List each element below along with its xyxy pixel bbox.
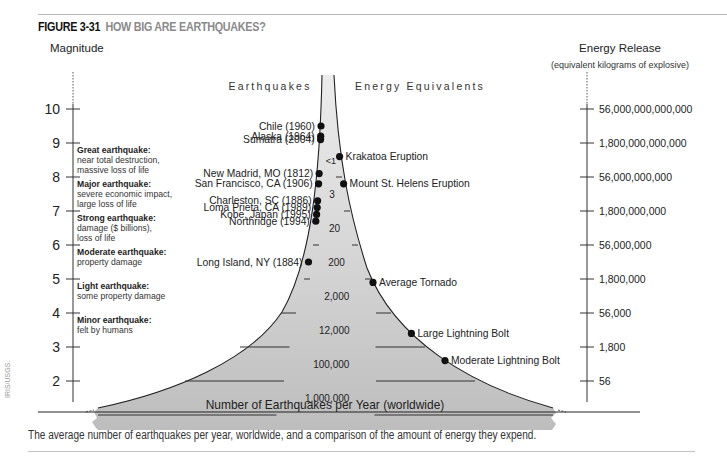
magnitude-tick-label: 10 — [44, 101, 60, 117]
category-description: property damage — [77, 257, 142, 267]
frequency-band-label: 100,000 — [313, 359, 350, 370]
frequency-band-label: <1 — [326, 156, 336, 166]
earthquake-label: Sumatra (2004) — [243, 134, 315, 145]
energy-equivalent-point: Large Lightning Bolt — [408, 328, 509, 339]
energy-equivalent-label: Mount St. Helens Eruption — [350, 178, 470, 189]
energy-tick-label: 1,800,000,000 — [599, 205, 666, 217]
energy-equivalent-label: Moderate Lightning Bolt — [451, 355, 560, 366]
earthquake-point: Sumatra (2004) — [243, 134, 324, 145]
image-credit: IRIS/USGS. — [4, 361, 11, 398]
earthquake-point: San Francisco, CA (1906) — [195, 178, 323, 189]
earthquake-point: Long Island, NY (1884) — [197, 257, 312, 268]
energy-equivalent-label: Average Tornado — [379, 277, 457, 288]
point-marker — [305, 258, 312, 265]
magnitude-ticks: 1098765432 — [44, 101, 80, 389]
magnitude-tick-label: 2 — [52, 373, 60, 389]
energy-tick-label: 56,000,000 — [599, 239, 652, 251]
energy-tick-label: 1,800 — [599, 341, 625, 353]
category-name: Light earthquake: — [77, 281, 149, 291]
energy-equivalent-label: Krakatoa Eruption — [346, 151, 429, 162]
category-description: damage ($ billions), — [77, 223, 152, 233]
category-item: Major earthquake:severe economic impact,… — [77, 179, 172, 209]
energy-equivalents-header: Energy Equivalents — [355, 80, 485, 92]
point-marker — [313, 211, 320, 218]
magnitude-axis-title: Magnitude — [50, 42, 104, 54]
energy-tick-label: 56,000,000,000,000 — [599, 103, 693, 115]
point-marker — [340, 180, 347, 187]
energy-equivalent-point: Mount St. Helens Eruption — [340, 178, 470, 189]
energy-tick-label: 1,800,000,000,000 — [599, 137, 687, 149]
point-marker — [317, 136, 324, 143]
earthquake-label: San Francisco, CA (1906) — [195, 178, 313, 189]
category-name: Minor earthquake: — [77, 315, 152, 325]
energy-tick-label: 1,800,000 — [599, 273, 646, 285]
magnitude-tick-label: 3 — [52, 339, 60, 355]
energy-axis-subtitle: (equivalent kilograms of explosive) — [551, 60, 689, 70]
point-marker — [408, 330, 415, 337]
magnitude-tick-label: 5 — [52, 271, 60, 287]
earthquake-points: Chile (1960)Alaska (1964)Sumatra (2004)N… — [195, 121, 325, 268]
point-marker — [441, 357, 448, 364]
magnitude-tick-label: 8 — [52, 169, 60, 185]
category-description: massive loss of life — [77, 165, 149, 175]
point-marker — [314, 204, 321, 211]
point-marker — [312, 218, 319, 225]
point-marker — [314, 197, 321, 204]
earthquake-categories: Great earthquake:near total destruction,… — [77, 145, 172, 335]
figure-caption: The average number of earthquakes per ye… — [28, 428, 536, 442]
energy-tick-label: 56 — [599, 375, 611, 387]
energy-tick-label: 56,000,000,000 — [599, 171, 672, 183]
energy-equivalent-point: Average Tornado — [369, 277, 457, 288]
category-description: loss of life — [77, 233, 115, 243]
category-description: some property damage — [77, 291, 166, 301]
frequency-band-label: 3 — [329, 189, 335, 200]
category-description: large loss of life — [77, 199, 137, 209]
energy-ticks: 56,000,000,000,0001,800,000,000,00056,00… — [580, 103, 693, 387]
frequency-band-label: 2,000 — [324, 291, 349, 302]
category-item: Great earthquake:near total destruction,… — [77, 145, 160, 175]
frequency-band-label: 12,000 — [319, 325, 350, 336]
category-item: Moderate earthquake:property damage — [77, 247, 166, 267]
magnitude-tick-label: 9 — [52, 135, 60, 151]
category-item: Strong earthquake:damage ($ billions),lo… — [77, 213, 156, 243]
magnitude-tick-label: 6 — [52, 237, 60, 253]
base-label: Number of Earthquakes per Year (worldwid… — [206, 398, 445, 413]
magnitude-tick-label: 7 — [52, 203, 60, 219]
earthquake-magnitude-diagram: Magnitude Energy Release (equivalent kil… — [0, 0, 727, 458]
energy-equivalent-point: Krakatoa Eruption — [336, 151, 428, 162]
earthquake-point: Northridge (1994) — [229, 216, 319, 227]
earthquake-label: Northridge (1994) — [229, 216, 310, 227]
frequency-band-label: 200 — [328, 257, 345, 268]
category-description: near total destruction, — [77, 155, 160, 165]
earthquake-label: Long Island, NY (1884) — [197, 257, 303, 268]
energy-axis-title: Energy Release — [579, 42, 661, 54]
energy-equivalent-label: Large Lightning Bolt — [417, 328, 509, 339]
category-name: Major earthquake: — [77, 179, 151, 189]
bottom-rule — [28, 451, 695, 452]
earthquakes-header: Earthquakes — [228, 80, 311, 92]
energy-tick-label: 56,000 — [599, 307, 631, 319]
category-description: severe economic impact, — [77, 189, 172, 199]
energy-equivalent-point: Moderate Lightning Bolt — [441, 355, 560, 366]
category-name: Moderate earthquake: — [77, 247, 166, 257]
category-item: Light earthquake:some property damage — [77, 281, 166, 301]
frequency-band-label: 20 — [329, 223, 341, 234]
magnitude-tick-label: 4 — [52, 305, 60, 321]
category-name: Great earthquake: — [77, 145, 151, 155]
point-marker — [336, 153, 343, 160]
category-description: felt by humans — [77, 325, 133, 335]
point-marker — [369, 279, 376, 286]
point-marker — [315, 180, 322, 187]
category-item: Minor earthquake:felt by humans — [77, 315, 152, 335]
point-marker — [317, 122, 324, 129]
point-marker — [316, 170, 323, 177]
category-name: Strong earthquake: — [77, 213, 156, 223]
